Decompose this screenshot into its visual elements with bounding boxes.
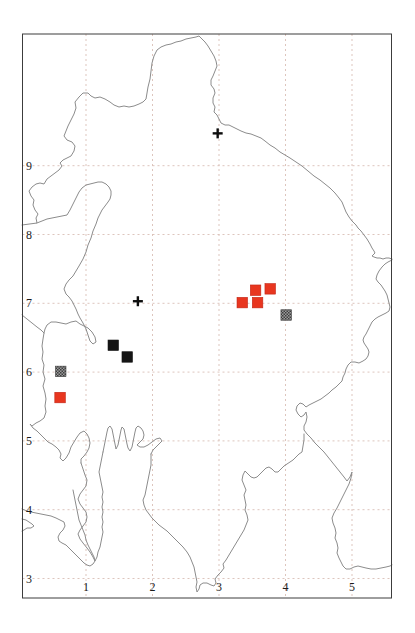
y-tick-label-8: 8	[26, 228, 32, 242]
y-tick-label-7: 7	[26, 296, 32, 310]
y-tick-label-4: 4	[26, 503, 32, 517]
outline-segment-7	[143, 434, 304, 592]
y-tick-label-6: 6	[26, 365, 32, 379]
outline-segment-6	[103, 426, 162, 454]
outline-segment-4	[78, 452, 103, 561]
record-symbols	[55, 128, 292, 402]
distribution-map-canvas: 987654312345	[0, 0, 415, 633]
black-square-symbol	[122, 352, 133, 363]
y-tick-label-9: 9	[26, 159, 32, 173]
red-square-symbol	[252, 297, 263, 308]
axis-tick-labels: 987654312345	[26, 159, 355, 594]
outline-segment-3	[30, 182, 111, 463]
red-square-symbol	[237, 297, 248, 308]
outline-segment-2	[296, 260, 392, 569]
x-tick-label-4: 4	[283, 580, 289, 594]
red-square-symbol	[55, 392, 66, 403]
red-square-symbol	[265, 284, 276, 295]
outline-segment-1	[22, 36, 392, 259]
gray-square-symbol	[281, 310, 292, 321]
x-tick-label-1: 1	[83, 580, 89, 594]
outline-segment-9	[22, 519, 34, 531]
cross-symbol	[133, 296, 143, 306]
x-tick-label-3: 3	[216, 580, 222, 594]
outline-segment-8	[22, 490, 95, 566]
y-tick-label-5: 5	[26, 434, 32, 448]
cross-symbol	[213, 128, 223, 138]
map-figure: 987654312345	[0, 0, 415, 633]
x-tick-label-2: 2	[150, 580, 156, 594]
x-tick-label-5: 5	[349, 580, 355, 594]
black-square-symbol	[108, 340, 119, 351]
county-outline	[22, 36, 392, 592]
y-tick-label-3: 3	[26, 572, 32, 586]
red-square-symbol	[250, 285, 261, 296]
gray-square-symbol	[55, 366, 65, 377]
outline-segment-5	[22, 315, 44, 333]
